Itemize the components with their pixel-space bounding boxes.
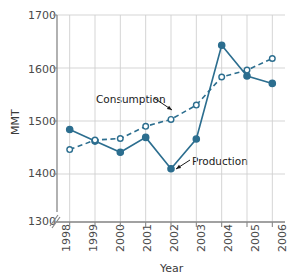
data-point-consumption-2002: [168, 117, 174, 123]
annotation-arrows: [154, 98, 190, 169]
plot-area: [0, 0, 291, 277]
data-point-consumption-2005: [244, 67, 250, 73]
data-point-consumption-1999: [92, 137, 98, 143]
data-point-production-2001: [143, 134, 149, 140]
data-point-production-2002: [168, 166, 174, 172]
data-point-consumption-2001: [143, 124, 149, 130]
data-point-consumption-2006: [270, 56, 276, 62]
data-point-production-2006: [269, 80, 275, 86]
data-point-production-2005: [244, 73, 250, 79]
data-point-production-2003: [193, 136, 199, 142]
data-point-consumption-1998: [67, 147, 73, 153]
data-point-production-2004: [219, 42, 225, 48]
data-point-consumption-2003: [194, 102, 200, 108]
data-point-production-1998: [67, 126, 73, 132]
chart-container: 1700 1600 1500 1400 1300 MMT 1998 1999 2…: [0, 0, 291, 277]
data-point-consumption-2004: [219, 74, 225, 80]
data-point-production-2000: [117, 149, 123, 155]
axis-lines: [50, 15, 285, 228]
data-point-consumption-2000: [118, 136, 124, 142]
